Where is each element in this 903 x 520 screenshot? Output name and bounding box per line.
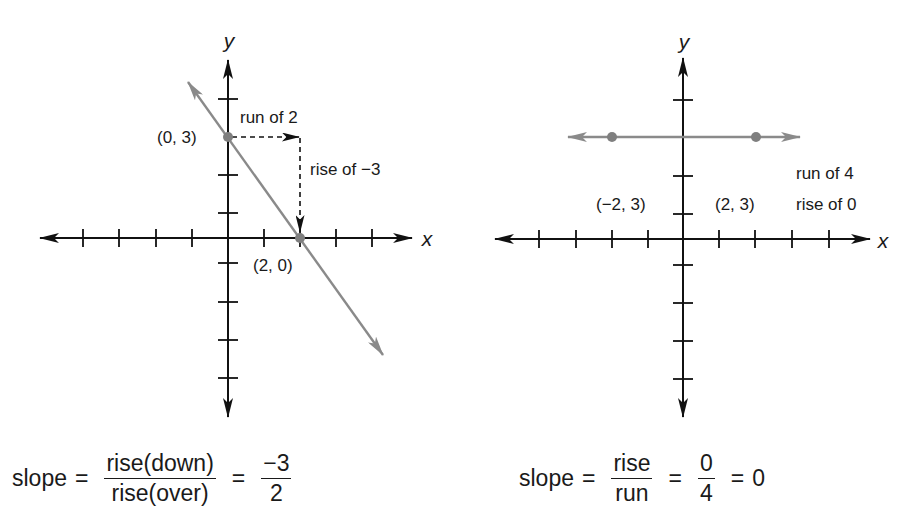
fraction-value: −3 2 bbox=[261, 452, 291, 505]
point-label-neg2-3: (−2, 3) bbox=[596, 196, 646, 213]
numerator: rise bbox=[611, 452, 652, 479]
point-0-3 bbox=[223, 132, 233, 142]
equals-sign: = bbox=[668, 467, 681, 490]
left-slope-formula: slope = rise(down) rise(over) = −3 2 bbox=[12, 452, 299, 505]
rise-label: rise of −3 bbox=[310, 161, 380, 178]
run-label: run of 2 bbox=[240, 109, 298, 126]
left-y-axis-label: y bbox=[224, 30, 235, 51]
fraction-value: 0 4 bbox=[698, 452, 715, 505]
formula-lhs: slope bbox=[519, 467, 574, 490]
rise-label-right: rise of 0 bbox=[796, 196, 856, 213]
denominator: run bbox=[613, 479, 650, 505]
fraction-rise-over-run: rise(down) rise(over) bbox=[104, 452, 215, 505]
denominator: rise(over) bbox=[110, 479, 211, 505]
equals-sign: = bbox=[582, 467, 595, 490]
point-neg2-3 bbox=[607, 132, 617, 142]
right-slope-formula: slope = rise run = 0 4 = 0 bbox=[519, 452, 765, 505]
point-label-0-3: (0, 3) bbox=[157, 129, 197, 146]
equals-sign: = bbox=[232, 467, 245, 490]
denominator: 4 bbox=[698, 479, 715, 505]
denominator: 2 bbox=[268, 479, 285, 505]
equals-sign: = bbox=[731, 467, 744, 490]
formula-lhs: slope bbox=[12, 467, 67, 490]
point-2-0 bbox=[295, 233, 305, 243]
numerator: 0 bbox=[698, 452, 715, 479]
run-label-right: run of 4 bbox=[796, 165, 854, 182]
numerator: −3 bbox=[261, 452, 291, 479]
right-x-axis-label: x bbox=[878, 230, 889, 251]
formula-result: 0 bbox=[752, 467, 765, 490]
left-x-axis-label: x bbox=[422, 228, 433, 249]
numerator: rise(down) bbox=[104, 452, 215, 479]
equals-sign: = bbox=[75, 467, 88, 490]
right-graph bbox=[495, 58, 870, 417]
graphs-canvas bbox=[0, 0, 903, 520]
right-y-axis-label: y bbox=[679, 31, 690, 52]
point-label-2-3: (2, 3) bbox=[715, 196, 755, 213]
left-graph bbox=[40, 60, 412, 417]
point-2-3 bbox=[751, 132, 761, 142]
fraction-rise-over-run: rise run bbox=[611, 452, 652, 505]
point-label-2-0: (2, 0) bbox=[253, 257, 293, 274]
